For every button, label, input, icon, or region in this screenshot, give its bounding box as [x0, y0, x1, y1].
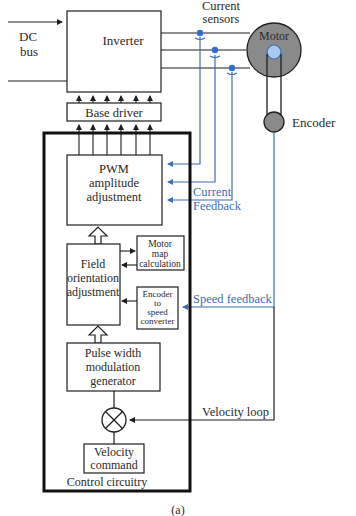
encoder-converter-block: Encoder to speed converter [137, 287, 178, 329]
base-driver-label: Base driver [85, 106, 143, 120]
pwm-label-line1: PWM [99, 162, 129, 176]
dc-bus-label-line2: bus [20, 44, 38, 59]
current-feedback-label-line2: Feedback [193, 199, 242, 213]
pwm-generator-label-line2: modulation [86, 360, 141, 374]
motor-map-label-line1: Motor [148, 239, 173, 249]
speed-feedback-label: Speed feedback [193, 292, 273, 306]
pwm-generator-block: Pulse width modulation generator [67, 343, 160, 391]
field-label-line2: orientation [67, 271, 119, 285]
motor-label: Motor [259, 29, 289, 43]
speed-feedback-line [183, 132, 274, 307]
pwm-generator-label-line1: Pulse width [85, 346, 141, 360]
current-feedback-lines [168, 37, 237, 200]
inverter-block: Inverter [67, 11, 161, 92]
motor-map-label-line2: map [152, 249, 169, 259]
current-sensors-label-line2: sensors [203, 12, 240, 26]
field-label-line3: adjustment [67, 285, 120, 299]
velocity-command-label-line2: command [90, 458, 137, 472]
encoder-converter-label-line4: converter [141, 316, 175, 326]
rotor-shaft-icon [267, 45, 281, 59]
base-driver-block: Base driver [67, 103, 161, 121]
field-orientation-block: Field orientation adjustment [67, 244, 120, 325]
encoder-label: Encoder [292, 115, 336, 130]
dc-bus-label-line1: DC [19, 29, 37, 44]
hollow-arrow-icon [89, 326, 107, 343]
field-label-line1: Field [81, 257, 106, 271]
dc-bus: DC bus [8, 22, 67, 81]
pwm-label-line3: adjustment [87, 190, 142, 204]
velocity-command-label-line1: Velocity [94, 445, 134, 459]
motor-icon: Motor [247, 23, 301, 77]
hollow-arrow-icon [89, 227, 107, 244]
current-sensor-2-icon [212, 47, 218, 53]
current-feedback-label-line1: Current [193, 185, 232, 199]
velocity-command-block: Velocity command [84, 444, 144, 473]
inverter-label: Inverter [102, 33, 144, 48]
pwm-generator-label-line3: generator [90, 374, 135, 388]
phase-lines [161, 33, 250, 68]
motor-map-block: Motor map calculation [137, 236, 184, 270]
pwm-amplitude-block: PWM amplitude adjustment [67, 155, 162, 225]
pwm-label-line2: amplitude [89, 176, 139, 190]
current-sensor-1-icon [197, 30, 203, 36]
current-sensor-3-icon [229, 65, 235, 71]
velocity-loop-label: Velocity loop [202, 405, 269, 419]
motor-map-label-line3: calculation [139, 259, 181, 269]
summing-junction-icon [102, 408, 126, 432]
motor-drive-diagram: DC bus Inverter Current sensors Motor [0, 0, 356, 516]
figure-caption: (a) [171, 503, 184, 516]
control-circuitry-label: Control circuitry [67, 475, 147, 489]
encoder-icon [264, 112, 284, 132]
